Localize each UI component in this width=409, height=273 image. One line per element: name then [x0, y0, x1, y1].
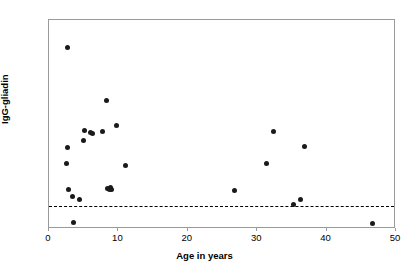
x-axis-tick-label: 10: [112, 232, 123, 243]
data-point: [64, 161, 69, 166]
data-point: [271, 129, 276, 134]
data-point: [65, 45, 70, 50]
x-axis-tick-mark: [48, 228, 49, 231]
x-axis-tick-mark: [326, 228, 327, 231]
x-axis-tick-label: 20: [182, 232, 193, 243]
data-point: [70, 194, 75, 199]
x-axis-tick-label: 40: [320, 232, 331, 243]
x-axis-tick-mark: [117, 228, 118, 231]
data-point: [109, 187, 114, 192]
plot-area: [48, 19, 395, 228]
data-point: [100, 129, 105, 134]
x-axis-tick-label: 0: [45, 232, 50, 243]
data-point: [298, 197, 303, 202]
data-point: [90, 131, 95, 136]
data-point: [65, 145, 70, 150]
data-point: [370, 221, 375, 226]
data-point: [71, 220, 76, 225]
data-point: [66, 187, 71, 192]
threshold-dashed-line: [49, 206, 394, 207]
x-axis-tick-mark: [256, 228, 257, 231]
scatter-plot-figure: IgG-gliadin 020406080100120140160180 Age…: [0, 0, 409, 273]
data-point: [302, 144, 307, 149]
x-axis-title: Age in years: [0, 250, 409, 261]
data-point: [104, 98, 109, 103]
x-axis-tick-mark: [395, 228, 396, 231]
data-point: [82, 128, 87, 133]
data-point: [77, 197, 82, 202]
data-point: [123, 163, 128, 168]
x-axis-tick-mark: [187, 228, 188, 231]
data-point: [264, 161, 269, 166]
data-point: [81, 138, 86, 143]
data-point: [232, 188, 237, 193]
data-point: [114, 123, 119, 128]
x-axis-tick-label: 50: [390, 232, 401, 243]
y-axis: 020406080100120140160180: [0, 0, 48, 273]
x-axis-tick-label: 30: [251, 232, 262, 243]
